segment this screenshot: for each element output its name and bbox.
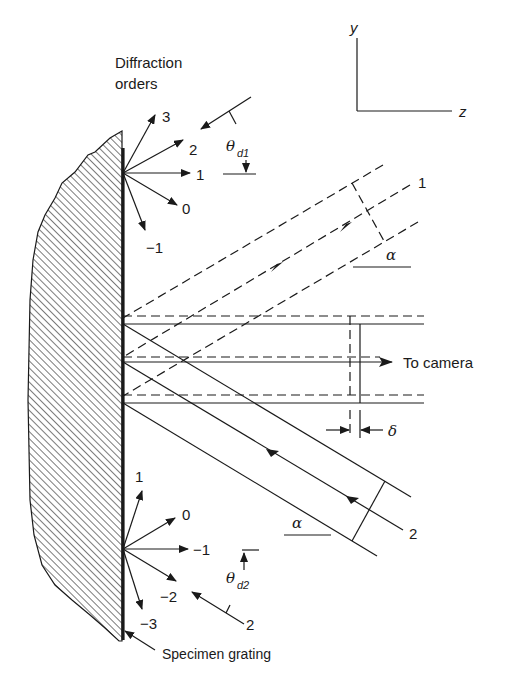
delta-marker: δ [326, 422, 397, 440]
incident-bottom-label: 2 [246, 616, 254, 633]
svg-text:θ: θ [226, 569, 235, 587]
axes: y z [349, 19, 467, 120]
grating-label: Specimen grating [162, 646, 271, 662]
alpha-bottom: α [292, 514, 302, 532]
bottom-diffraction-orders: 1 0 −1 −2 −3 [123, 468, 210, 632]
order-top-minus1: −1 [146, 239, 163, 256]
order-bottom-minus1: −1 [193, 541, 210, 558]
title-line2: orders [115, 75, 158, 92]
order-top-2: 2 [189, 141, 197, 158]
grating-label-group: Specimen grating [125, 631, 271, 662]
top-diffraction-orders: 3 2 1 0 −1 [123, 108, 204, 256]
z-axis-label: z [458, 103, 467, 120]
alpha-top: α [386, 246, 396, 264]
beam-2: 2 α [123, 324, 417, 556]
svg-text:d2: d2 [237, 579, 249, 591]
order-bottom-1: 1 [135, 468, 143, 485]
beam-2-label: 2 [409, 525, 417, 542]
svg-text:d1: d1 [237, 147, 249, 159]
svg-text:θ: θ [226, 137, 235, 155]
beam-1-label: 1 [418, 174, 426, 191]
order-bottom-0: 0 [182, 506, 190, 523]
diffraction-diagram: y z Diffraction orders 3 2 1 0 −1 θ d1 1… [0, 0, 511, 684]
camera-label: To camera [403, 354, 474, 371]
delta-label: δ [388, 422, 397, 440]
y-axis-label: y [349, 19, 359, 36]
angle-theta-d2: θ d2 2 [192, 550, 259, 633]
title-line1: Diffraction [115, 54, 182, 71]
order-bottom-minus3: −3 [140, 615, 157, 632]
order-top-1: 1 [196, 166, 204, 183]
order-top-3: 3 [162, 108, 170, 125]
order-top-0: 0 [182, 200, 190, 217]
camera-beams: To camera [123, 316, 474, 438]
specimen-grating [28, 131, 123, 641]
angle-theta-d1: θ d1 [201, 97, 256, 174]
order-bottom-minus2: −2 [160, 588, 177, 605]
